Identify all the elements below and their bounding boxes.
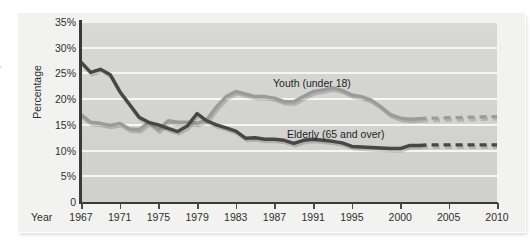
y-axis-title: Percentage — [31, 47, 43, 137]
x-tick-mark — [400, 203, 402, 209]
series-projection-shadow — [421, 147, 497, 148]
x-tick-label: 1975 — [147, 211, 170, 223]
y-tick-label: 20% — [55, 93, 76, 105]
x-tick-label: 1979 — [185, 211, 208, 223]
y-tick-label: 10% — [55, 145, 76, 157]
y-tick-label: 30% — [55, 42, 76, 54]
x-tick-mark — [158, 203, 160, 209]
x-tick-mark — [497, 203, 499, 209]
x-tick-label: 1991 — [301, 211, 324, 223]
series-projection-youth — [420, 117, 497, 119]
x-tick-mark — [197, 203, 199, 209]
chart-figure: f y 05%10%15%20%25%30%35% Percentage 196… — [0, 0, 530, 241]
y-tick-label: 15% — [55, 119, 76, 131]
x-tick-label: 2010 — [485, 211, 508, 223]
x-tick-label: 1971 — [108, 211, 131, 223]
x-axis-title: Year — [31, 211, 52, 223]
y-tick-label: 0 — [70, 196, 76, 208]
series-projection-elderly — [420, 145, 497, 146]
series-label-elderly: Elderly (65 and over) — [287, 128, 384, 140]
y-tick-label: 25% — [55, 67, 76, 79]
x-axis-line — [80, 202, 498, 204]
y-tick-label: 35% — [55, 16, 76, 28]
x-tick-label: 1983 — [224, 211, 247, 223]
series-lines — [81, 22, 497, 202]
plot-area — [81, 22, 497, 202]
y-axis-line — [79, 20, 82, 204]
x-tick-mark — [449, 203, 451, 209]
series-label-youth: Youth (under 18) — [273, 77, 351, 89]
y-tick-label: 5% — [61, 170, 76, 182]
x-tick-label: 1987 — [263, 211, 286, 223]
x-tick-mark — [352, 203, 354, 209]
x-tick-label: 2005 — [437, 211, 460, 223]
x-tick-mark — [274, 203, 276, 209]
plot-inner — [81, 22, 497, 202]
x-tick-mark — [236, 203, 238, 209]
x-tick-mark — [81, 203, 83, 209]
x-tick-label: 2000 — [389, 211, 412, 223]
x-tick-label: 1995 — [340, 211, 363, 223]
x-tick-mark — [313, 203, 315, 209]
x-tick-mark — [120, 203, 122, 209]
x-tick-label: 1967 — [69, 211, 92, 223]
